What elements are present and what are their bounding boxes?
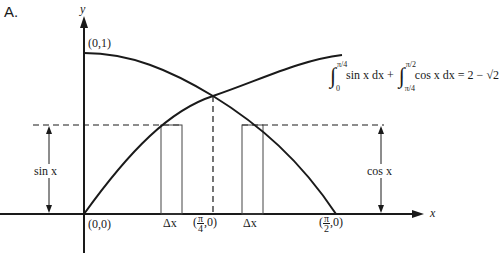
upper-limit: π/2 [406, 61, 416, 69]
fraction: π4 [197, 214, 204, 233]
upper-limit: π/4 [337, 61, 347, 69]
x-axis-label: x [430, 207, 435, 219]
panel-label: A. [4, 3, 18, 20]
delta-x-label-right: Δx [243, 217, 257, 229]
integral-sign-icon: ∫π/40 [330, 65, 336, 87]
cos-bracket-label: cos x [367, 164, 392, 178]
coord-tail: ,0) [204, 215, 217, 229]
integrand-sin: sin x dx + [346, 68, 394, 82]
delta-strip-left [161, 125, 182, 214]
sin-bracket-label: sin x [34, 164, 57, 178]
y-axis-arrow-icon [80, 16, 88, 28]
point-label-top: (0,1) [88, 37, 111, 49]
denominator: 4 [197, 224, 204, 233]
lower-limit: 0 [336, 85, 340, 93]
cos-curve [84, 53, 336, 214]
y-axis-label: y [80, 3, 85, 15]
x-axis-arrow-icon [412, 210, 424, 218]
arrowhead-up-icon [378, 126, 384, 134]
point-label-origin: (0,0) [88, 218, 111, 230]
fraction: π2 [323, 214, 330, 233]
integral-sign-icon: ∫π/2π/4 [399, 65, 405, 87]
arrowhead-down-icon [378, 205, 384, 213]
delta-x-label-left: Δx [163, 217, 177, 229]
delta-strip-right [242, 125, 263, 214]
denominator: 2 [323, 224, 330, 233]
point-label-quarter-pi: (π4,0) [193, 214, 217, 233]
lower-limit: π/4 [405, 85, 415, 93]
integrand-cos: cos x dx = 2 − √2 [415, 68, 499, 82]
point-label-half-pi: (π2,0) [319, 214, 343, 233]
arrowhead-up-icon [46, 126, 52, 134]
integral-equation: ∫π/40sin x dx + ∫π/2π/4cos x dx = 2 − √2 [330, 65, 499, 87]
coord-tail: ,0) [330, 215, 343, 229]
arrowhead-down-icon [46, 205, 52, 213]
